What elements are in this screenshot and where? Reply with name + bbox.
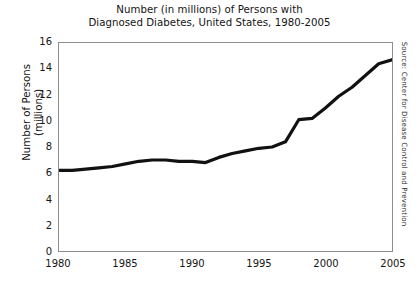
- data-series-line: [59, 43, 392, 251]
- chart-figure: Number (in millions) of Persons with Dia…: [0, 0, 419, 284]
- y-axis-tick-label: 6: [24, 168, 52, 178]
- x-axis-tick-label: 1985: [103, 258, 147, 270]
- chart-title-line-1: Number (in millions) of Persons with: [0, 4, 419, 17]
- x-axis-tick-labels: 198019851990199520002005: [58, 258, 393, 274]
- y-axis-tick-label: 8: [24, 142, 52, 152]
- x-axis-tick-label: 1995: [237, 258, 281, 270]
- plot-area: [58, 42, 393, 252]
- y-axis-tick-label: 12: [24, 90, 52, 100]
- y-axis-tick-label: 4: [24, 195, 52, 205]
- x-axis-tick-label: 2005: [371, 258, 415, 270]
- source-credit: Source: Center for Disease Control and P…: [400, 27, 408, 242]
- y-axis-tick-label: 10: [24, 116, 52, 126]
- chart-title: Number (in millions) of Persons with Dia…: [0, 4, 419, 29]
- x-axis-tick-label: 2000: [304, 258, 348, 270]
- x-axis-tick-label: 1980: [36, 258, 80, 270]
- y-axis-tick-label: 14: [24, 63, 52, 73]
- chart-title-line-2: Diagnosed Diabetes, United States, 1980-…: [0, 17, 419, 30]
- x-axis-tick-label: 1990: [170, 258, 214, 270]
- y-axis-tick-label: 2: [24, 221, 52, 231]
- y-axis-tick-label: 0: [24, 247, 52, 257]
- y-axis-tick-labels: 0246810121416: [24, 42, 52, 252]
- y-axis-tick-label: 16: [24, 37, 52, 47]
